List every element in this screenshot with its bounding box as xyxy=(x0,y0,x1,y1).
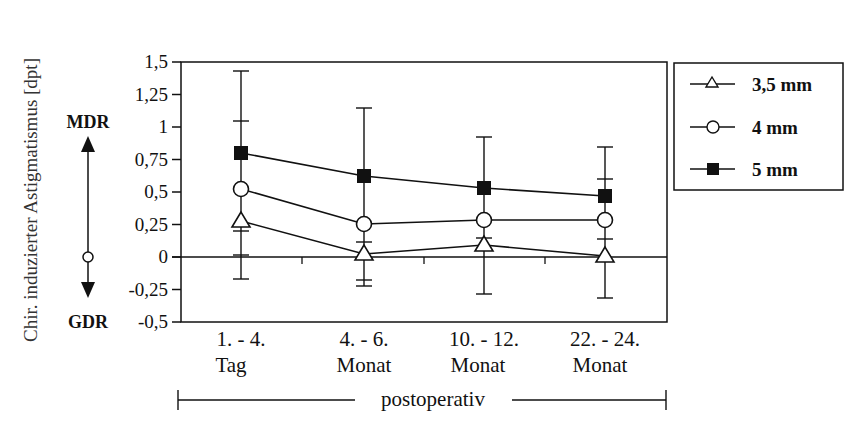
chart: Chir. induzierter Astigmatismus [dpt] MD… xyxy=(0,0,862,431)
square-marker-icon xyxy=(707,163,719,175)
svg-text:1: 1 xyxy=(159,116,169,137)
triangle-marker-icon xyxy=(232,212,250,227)
circle-marker-icon xyxy=(598,213,613,228)
svg-text:Monat: Monat xyxy=(573,353,628,377)
svg-text:10. - 12.: 10. - 12. xyxy=(449,327,519,351)
circle-marker-icon xyxy=(707,121,719,133)
mdr-label: MDR xyxy=(67,112,111,132)
svg-text:Monat: Monat xyxy=(337,353,392,377)
gdr-label: GDR xyxy=(68,312,109,332)
triangle-marker-icon xyxy=(596,247,614,262)
svg-text:-0,5: -0,5 xyxy=(138,311,168,332)
svg-text:Tag: Tag xyxy=(215,353,247,377)
y-tick-labels: 1,5 1,25 1 0,75 0,5 0,25 0 -0,25 -0,5 xyxy=(128,51,168,332)
series-line-3-5mm xyxy=(241,221,605,256)
legend: 3,5 mm 4 mm 5 mm xyxy=(674,63,843,190)
x-axis-label: postoperativ xyxy=(381,387,485,411)
y-axis-label: Chir. induzierter Astigmatismus [dpt] xyxy=(20,58,41,342)
x-category-labels: 1. - 4. Tag 4. - 6. Monat 10. - 12. Mona… xyxy=(215,327,640,377)
svg-text:5 mm: 5 mm xyxy=(752,159,798,180)
markers-4mm xyxy=(234,182,613,232)
circle-marker-icon xyxy=(234,182,249,197)
square-marker-icon xyxy=(234,146,248,160)
svg-text:0,25: 0,25 xyxy=(135,214,168,235)
circle-marker-icon xyxy=(477,213,492,228)
series-line-5mm xyxy=(241,153,605,196)
svg-text:0,5: 0,5 xyxy=(144,181,168,202)
square-marker-icon xyxy=(357,169,371,183)
svg-text:-0,25: -0,25 xyxy=(128,279,168,300)
svg-text:1,5: 1,5 xyxy=(144,51,168,72)
y-axis xyxy=(172,62,181,322)
series-line-4mm xyxy=(241,189,605,224)
mdr-gdr-arrow-icon xyxy=(81,136,95,298)
square-marker-icon xyxy=(598,189,612,203)
svg-text:3,5 mm: 3,5 mm xyxy=(752,74,812,95)
svg-text:Monat: Monat xyxy=(451,353,506,377)
svg-text:1. - 4.: 1. - 4. xyxy=(217,327,266,351)
svg-text:4. - 6.: 4. - 6. xyxy=(340,327,389,351)
square-marker-icon xyxy=(477,181,491,195)
circle-marker-icon xyxy=(357,217,372,232)
error-bars xyxy=(233,71,613,298)
svg-text:0: 0 xyxy=(159,246,169,267)
zero-line xyxy=(172,257,667,264)
svg-text:4 mm: 4 mm xyxy=(752,117,798,138)
svg-text:22. - 24.: 22. - 24. xyxy=(570,327,640,351)
svg-text:0,75: 0,75 xyxy=(135,149,168,170)
svg-text:1,25: 1,25 xyxy=(135,84,168,105)
markers-5mm xyxy=(234,146,612,203)
